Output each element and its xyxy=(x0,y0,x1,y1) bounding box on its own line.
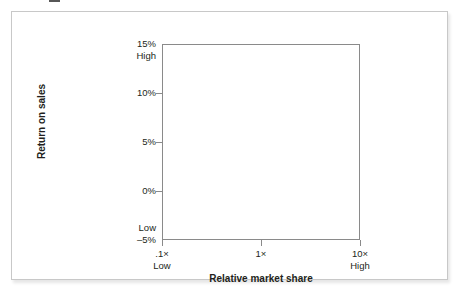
y-axis-tick-label: –5% xyxy=(96,234,156,245)
y-axis-tick-label: 5% xyxy=(96,136,156,147)
figure-card: Return on sales 15%High10%5%0%–5%Low .1×… xyxy=(11,11,448,280)
x-axis-tick-mark xyxy=(162,240,163,246)
y-axis-tick-mark xyxy=(156,191,162,192)
y-axis-tick-group: 15%High10%5%0%–5%Low xyxy=(95,12,156,281)
x-axis-title: Relative market share xyxy=(162,273,360,284)
x-axis-tick-label: 10× xyxy=(320,248,400,259)
y-axis-title: Return on sales xyxy=(36,62,47,182)
y-axis-tick-sublabel: High xyxy=(96,50,156,61)
cropped-caption-fragment xyxy=(49,0,60,2)
x-axis-tick-mark xyxy=(360,240,361,246)
y-axis-tick-label: 15% xyxy=(96,38,156,49)
y-axis-tick-label: 0% xyxy=(96,185,156,196)
y-axis-tick-mark xyxy=(156,93,162,94)
x-axis-tick-mark xyxy=(261,240,262,246)
y-axis-tick-sublabel: Low xyxy=(96,222,156,233)
plot-area xyxy=(162,44,360,240)
y-axis-tick-label: 10% xyxy=(96,87,156,98)
x-axis-tick-label: .1× xyxy=(122,248,202,259)
x-axis-tick-label: 1× xyxy=(221,248,301,259)
x-axis-tick-sublabel: High xyxy=(320,260,400,271)
y-axis-tick-mark xyxy=(156,142,162,143)
x-axis-tick-sublabel: Low xyxy=(122,260,202,271)
